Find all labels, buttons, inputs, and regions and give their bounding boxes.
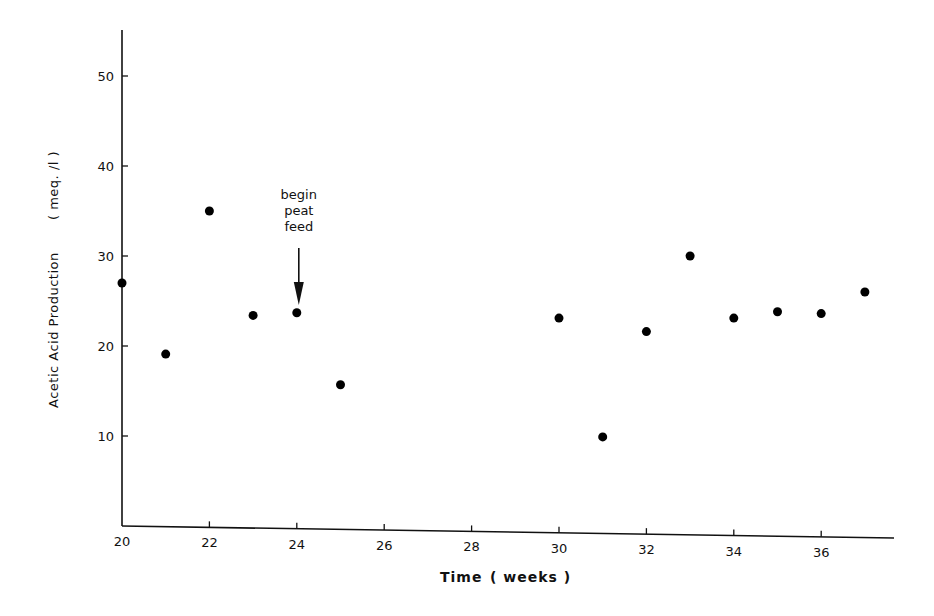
y-axis-title-group: Acetic Acid Production ( meq. /l ) xyxy=(46,151,61,408)
data-point xyxy=(336,380,345,389)
data-point xyxy=(555,314,564,323)
y-tick-label: 30 xyxy=(97,249,114,264)
data-point xyxy=(598,432,607,441)
x-axis-unit: ( weeks ) xyxy=(490,569,571,585)
x-tick-label: 36 xyxy=(813,545,830,560)
x-tick-label: 24 xyxy=(289,537,306,552)
peat-feed-annotation: beginpeatfeed xyxy=(281,187,317,305)
x-tick-label: 32 xyxy=(638,542,655,557)
x-tick-label: 26 xyxy=(376,538,393,553)
axes xyxy=(122,30,894,538)
annotation-text: peat xyxy=(284,203,313,218)
x-tick-label: 34 xyxy=(726,544,743,559)
data-point xyxy=(817,309,826,318)
x-tick-label: 20 xyxy=(114,534,131,549)
annotation-text: feed xyxy=(284,219,313,234)
data-point xyxy=(161,350,170,359)
y-tick-label: 10 xyxy=(97,429,114,444)
y-axis-title: Acetic Acid Production xyxy=(46,252,61,408)
data-point xyxy=(773,307,782,316)
x-axis-line xyxy=(122,526,894,538)
y-tick-label: 40 xyxy=(97,159,114,174)
x-tick-label: 28 xyxy=(463,539,480,554)
y-tick-label: 50 xyxy=(97,69,114,84)
scatter-chart: 1020304050 202224262830323436 beginpeatf… xyxy=(0,0,934,616)
data-point xyxy=(642,327,651,336)
data-point xyxy=(118,279,127,288)
data-point xyxy=(249,311,258,320)
x-tick-label: 22 xyxy=(201,535,218,550)
y-tick-label: 20 xyxy=(97,339,114,354)
x-tick-label: 30 xyxy=(551,541,568,556)
arrow-down-icon xyxy=(294,282,304,305)
y-axis-unit: ( meq. /l ) xyxy=(46,151,61,220)
data-point xyxy=(729,314,738,323)
y-axis-ticks: 1020304050 xyxy=(97,69,128,444)
data-point xyxy=(686,252,695,261)
data-point xyxy=(205,207,214,216)
annotation-text: begin xyxy=(281,187,317,202)
data-point xyxy=(292,308,301,317)
x-axis-title: Time xyxy=(440,569,482,585)
data-points xyxy=(118,207,870,442)
data-point xyxy=(860,288,869,297)
